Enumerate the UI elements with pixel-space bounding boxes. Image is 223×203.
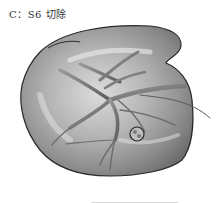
liver-illustration [0, 0, 223, 203]
tumor-marker [130, 127, 144, 141]
